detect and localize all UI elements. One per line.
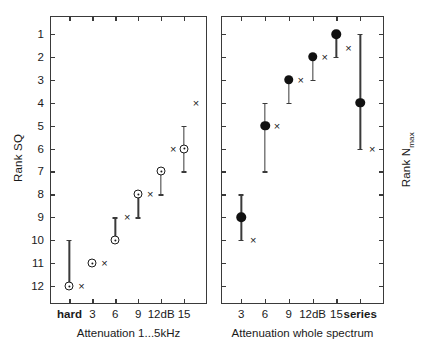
y-tick-mark [51, 80, 55, 81]
data-point-cross: × [369, 143, 375, 154]
y-tick-mark-right [379, 103, 383, 104]
y-tick-mark [222, 263, 226, 264]
error-bar-cap-lower [263, 171, 268, 172]
y-tick-mark [51, 194, 55, 195]
x-tick-mark [360, 299, 361, 303]
error-bar-cap-upper [358, 34, 363, 35]
data-point-cross: × [298, 74, 304, 85]
data-point-cross: × [193, 97, 199, 108]
x-tick-mark-top [360, 17, 361, 21]
x-tick-mark-top [241, 17, 242, 21]
y-tick-mark [51, 217, 55, 218]
x-tick-label: hard [57, 308, 82, 320]
y-tick-mark-right [379, 34, 383, 35]
y-tick-mark [51, 240, 55, 241]
x-tick-label: 3 [238, 308, 244, 320]
data-point-cross: × [124, 212, 130, 223]
data-point-cross: × [274, 120, 280, 131]
y-tick-label: 7 [22, 165, 44, 177]
x-tick-mark [241, 299, 242, 303]
marker-center-dot [91, 262, 93, 264]
y-tick-mark-right [379, 149, 383, 150]
data-point-cross: × [78, 281, 84, 292]
y-tick-label: 6 [22, 143, 44, 155]
x-tick-label: 6 [112, 308, 118, 320]
data-point-cross: × [321, 51, 327, 62]
x-tick-mark-top [161, 17, 162, 21]
chart-figure: Rank SQ Attenuation 1...5kHz 12345678910… [0, 0, 427, 350]
y-tick-label: 8 [22, 188, 44, 200]
y-tick-mark-right [379, 171, 383, 172]
error-bar-cap-lower [286, 103, 291, 104]
x-tick-label: 12dB [299, 308, 326, 320]
x-tick-mark-top [92, 17, 93, 21]
x-tick-label: 6 [262, 308, 268, 320]
x-tick-label: 12dB [148, 308, 175, 320]
x-tick-mark [161, 299, 162, 303]
error-bar-cap-lower [182, 171, 187, 172]
data-point-open-circle [88, 259, 97, 268]
error-bar-cap-upper [263, 103, 268, 104]
y-tick-mark [51, 34, 55, 35]
y-tick-mark [222, 286, 226, 287]
y-tick-mark-right [379, 217, 383, 218]
x-tick-mark [336, 299, 337, 303]
y-tick-mark [222, 194, 226, 195]
y-tick-mark-right [379, 126, 383, 127]
marker-center-dot [183, 147, 185, 149]
data-point-open-circle [180, 144, 189, 153]
x-tick-mark-top [336, 17, 337, 21]
y-tick-mark-right [379, 194, 383, 195]
x-tick-mark [184, 299, 185, 303]
y-tick-mark [222, 57, 226, 58]
x-tick-mark-top [138, 17, 139, 21]
x-tick-mark-top [69, 17, 70, 21]
y-tick-mark [222, 103, 226, 104]
y-tick-mark [222, 80, 226, 81]
y-tick-label: 3 [22, 74, 44, 86]
data-point-filled-circle [308, 52, 318, 62]
y-tick-label: 4 [22, 97, 44, 109]
error-bar [264, 103, 265, 172]
left-y-axis-title: Rank SQ [12, 123, 24, 193]
error-bar-cap-lower [136, 217, 141, 218]
y-tick-mark [222, 217, 226, 218]
y-tick-mark-right [379, 286, 383, 287]
y-tick-mark [222, 34, 226, 35]
y-tick-mark [222, 149, 226, 150]
y-tick-mark [51, 171, 55, 172]
data-point-open-circle [65, 282, 74, 291]
y-tick-label: 10 [22, 234, 44, 246]
y-tick-mark [51, 149, 55, 150]
data-point-filled-circle [332, 29, 342, 39]
data-point-cross: × [101, 258, 107, 269]
y-tick-mark [51, 263, 55, 264]
error-bar [69, 240, 70, 286]
marker-center-dot [68, 285, 70, 287]
error-bar-cap-upper [67, 240, 72, 241]
y-tick-label: 12 [22, 280, 44, 292]
x-tick-label: 3 [89, 308, 95, 320]
data-point-cross: × [345, 42, 351, 53]
y-tick-mark-right [379, 80, 383, 81]
data-point-cross: × [250, 235, 256, 246]
error-bar [360, 34, 361, 149]
y-tick-mark-right [379, 263, 383, 264]
data-point-cross: × [147, 189, 153, 200]
right-y-axis-title-base: Rank N [400, 148, 412, 188]
data-point-open-circle [134, 190, 143, 199]
x-tick-mark [138, 299, 139, 303]
x-tick-mark [265, 299, 266, 303]
data-point-cross: × [170, 143, 176, 154]
x-tick-mark [289, 299, 290, 303]
x-tick-label: 9 [135, 308, 141, 320]
y-tick-label: 9 [22, 211, 44, 223]
x-tick-mark [313, 299, 314, 303]
y-tick-mark [51, 57, 55, 58]
x-tick-label: 15 [178, 308, 191, 320]
data-point-open-circle [111, 236, 120, 245]
error-bar-cap-lower [334, 57, 339, 58]
marker-center-dot [160, 170, 162, 172]
y-tick-mark [222, 171, 226, 172]
y-tick-mark [51, 286, 55, 287]
